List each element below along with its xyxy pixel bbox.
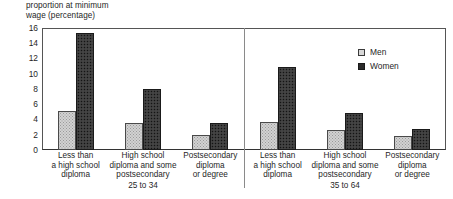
y-axis-tick-label: 4 (12, 115, 38, 123)
bar-women-3 (278, 67, 296, 150)
y-axis-tick-label: 6 (12, 100, 38, 108)
y-axis-tick-label: 2 (12, 131, 38, 139)
category-label-4: High school diploma and some postseconda… (311, 151, 378, 180)
category-label-2: Postsecondary diploma or degree (177, 151, 244, 180)
legend-swatch-men-icon (358, 49, 365, 56)
chart-axis-title: proportion at minimum wage (percentage) (26, 1, 109, 20)
bar-men-5 (394, 136, 412, 150)
category-label-3: Less than a high school diploma (244, 151, 311, 180)
y-axis-tick-label: 10 (12, 70, 38, 78)
bar-women-5 (412, 129, 430, 150)
y-axis-tick-label: 16 (12, 24, 38, 32)
y-axis-tick-label: 8 (12, 85, 38, 93)
legend-item-women: Women (358, 59, 399, 73)
group-label-0: 25 to 34 (42, 181, 244, 191)
bar-men-1 (125, 123, 143, 150)
chart-legend: Men Women (358, 45, 399, 73)
category-label-5: Postsecondary diploma or degree (379, 151, 446, 180)
category-label-1: High school diploma and some postseconda… (109, 151, 176, 180)
bar-men-2 (192, 135, 210, 150)
y-axis-tick-labels: 0246810121416 (8, 28, 38, 150)
category-label-0: Less than a high school diploma (42, 151, 109, 180)
bar-men-0 (58, 111, 76, 150)
bar-men-4 (327, 130, 345, 150)
legend-label-women: Women (370, 62, 399, 70)
legend-label-men: Men (370, 48, 386, 56)
y-axis-tick-label: 14 (12, 39, 38, 47)
bar-women-4 (345, 113, 363, 150)
group-label-1: 35 to 64 (244, 181, 446, 191)
legend-swatch-women-icon (358, 63, 365, 70)
bar-chart: proportion at minimum wage (percentage) … (0, 0, 453, 199)
legend-item-men: Men (358, 45, 399, 59)
y-axis-tick-label: 0 (12, 146, 38, 154)
bar-women-2 (210, 123, 228, 150)
bar-men-3 (260, 122, 278, 150)
bar-women-0 (76, 33, 94, 150)
y-axis-tick-label: 12 (12, 54, 38, 62)
bar-women-1 (143, 89, 161, 150)
